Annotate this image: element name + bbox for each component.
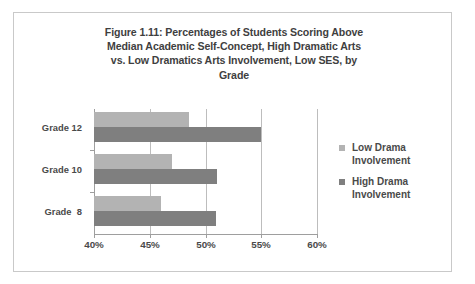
legend-label-high-drama-line-2: Involvement (352, 189, 444, 202)
legend-label-high-drama: High Drama Involvement (352, 176, 444, 201)
legend-entry-high-drama: High Drama Involvement (339, 176, 444, 201)
value-tick-label-55: 55% (241, 239, 281, 250)
value-tick-label-60: 60% (297, 239, 337, 250)
value-tick-45 (150, 234, 151, 238)
value-tick-60 (317, 234, 318, 238)
category-label-grade-12: Grade 12 (14, 122, 82, 133)
bar-grade-10-high-drama (94, 169, 217, 184)
category-label-grade-8: Grade 8 (14, 206, 82, 217)
category-label-grade-10: Grade 10 (14, 164, 82, 175)
legend-swatch-icon-high-drama (339, 179, 345, 185)
value-tick-55 (261, 234, 262, 238)
category-tick-1 (90, 150, 95, 151)
plot-area (94, 109, 317, 234)
bar-grade-12-high-drama (94, 127, 261, 142)
gridline-55 (261, 109, 262, 234)
legend-swatch-icon-low-drama (339, 145, 345, 151)
legend-entry-low-drama: Low Drama Involvement (339, 142, 444, 167)
value-tick-40 (94, 234, 95, 238)
bar-grade-8-low-drama (94, 196, 161, 211)
legend-label-high-drama-line-1: High Drama (352, 176, 444, 189)
legend-label-low-drama-line-2: Involvement (352, 155, 444, 168)
legend-label-low-drama: Low Drama Involvement (352, 142, 444, 167)
value-tick-50 (206, 234, 207, 238)
gridline-60 (317, 109, 318, 234)
bar-grade-10-low-drama (94, 154, 172, 169)
category-tick-2 (90, 192, 95, 193)
chart-legend: Low Drama Involvement High Drama Involve… (339, 142, 444, 210)
bar-grade-12-low-drama (94, 112, 189, 127)
value-tick-label-50: 50% (186, 239, 226, 250)
value-tick-label-45: 45% (130, 239, 170, 250)
legend-label-low-drama-line-1: Low Drama (352, 142, 444, 155)
value-tick-label-40: 40% (74, 239, 114, 250)
bar-grade-8-high-drama (94, 211, 216, 226)
figure-frame: Figure 1.11: Percentages of Students Sco… (13, 12, 452, 272)
